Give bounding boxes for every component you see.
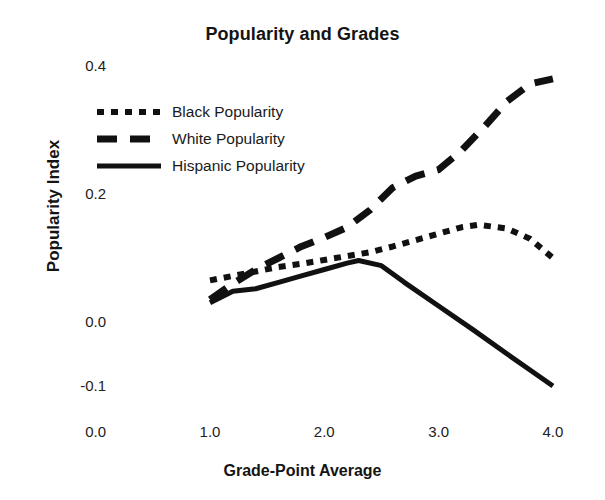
plot-area bbox=[0, 0, 605, 500]
series-line-black-popularity bbox=[210, 225, 553, 281]
series-line-hispanic-popularity bbox=[210, 261, 553, 386]
chart-container: Popularity and Grades Popularity Index G… bbox=[0, 0, 605, 500]
